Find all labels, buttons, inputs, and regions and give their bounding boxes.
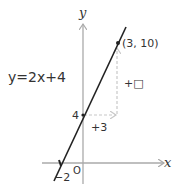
y-axis-label: y: [78, 5, 87, 20]
rise-label: +□: [124, 77, 144, 90]
origin-label: O: [73, 165, 81, 176]
point-label: (3, 10): [122, 37, 159, 50]
graph-line: [54, 27, 126, 181]
y-intercept-label: 4: [72, 109, 79, 122]
x-axis-label: x: [164, 155, 172, 170]
point-0-4: [81, 113, 84, 116]
linear-function-diagram: y x y=2x+4 (3, 10) +□ 4 +3 O −2: [0, 0, 173, 186]
point-3-10: [116, 41, 120, 45]
x-intercept-label: −2: [54, 171, 70, 184]
point-neg2-0-tick: [59, 160, 61, 166]
equation-label: y=2x+4: [8, 69, 66, 85]
run-label: +3: [91, 121, 107, 134]
